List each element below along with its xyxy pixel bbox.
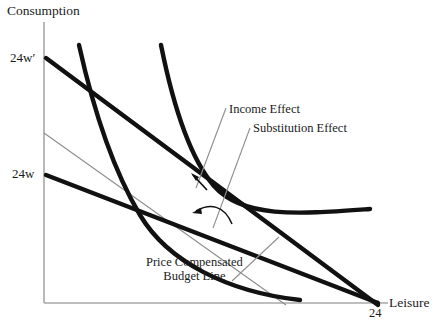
substitution-effect-leader-line [213, 128, 250, 228]
x-tick-label-24: 24 [369, 307, 382, 321]
price-compensated-budget-line-label-line2: Budget Line [146, 270, 243, 284]
y-axis-title: Consumption [7, 4, 80, 19]
price-compensated-budget-line-label-line1: Price Compensated [146, 256, 243, 270]
y-tick-label-24w-prime: 24w′ [10, 51, 35, 65]
substitution-effect-arrow [192, 207, 232, 224]
x-axis-title: Leisure [389, 296, 429, 311]
income-effect-leader-line [196, 108, 226, 188]
substitution-effect-label: Substitution Effect [253, 122, 347, 136]
budget-line-low-wage [46, 175, 378, 303]
y-tick-label-24w: 24w [12, 167, 34, 181]
income-effect-label: Income Effect [229, 103, 300, 117]
figure-root: Consumption Leisure 24w′ 24w 24 Income E… [0, 0, 439, 331]
price-compensated-budget-line-label: Price Compensated Budget Line [146, 256, 243, 283]
